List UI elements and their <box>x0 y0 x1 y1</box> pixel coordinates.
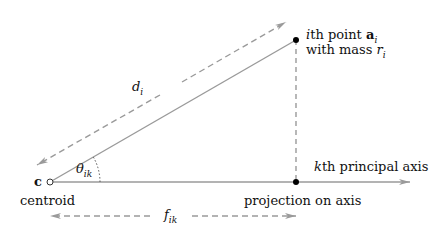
centroid-point <box>47 179 53 185</box>
centroid-symbol: c <box>34 175 42 189</box>
pca-projection-diagram: c centroid θik di ith point ai with mass… <box>0 0 440 232</box>
point-label-line2: with mass ri <box>306 43 386 62</box>
projection-length-label: fik <box>164 208 177 227</box>
centroid-to-point-line <box>50 40 296 182</box>
centroid-label: centroid <box>20 194 75 208</box>
axis-label: kth principal axis <box>314 160 428 174</box>
distance-label: di <box>132 80 143 99</box>
angle-arc <box>93 157 100 182</box>
distance-arrow-2 <box>182 22 286 82</box>
data-point <box>293 37 299 43</box>
projection-label: projection on axis <box>244 194 361 208</box>
angle-label: θik <box>76 162 92 181</box>
projection-point <box>293 179 299 185</box>
